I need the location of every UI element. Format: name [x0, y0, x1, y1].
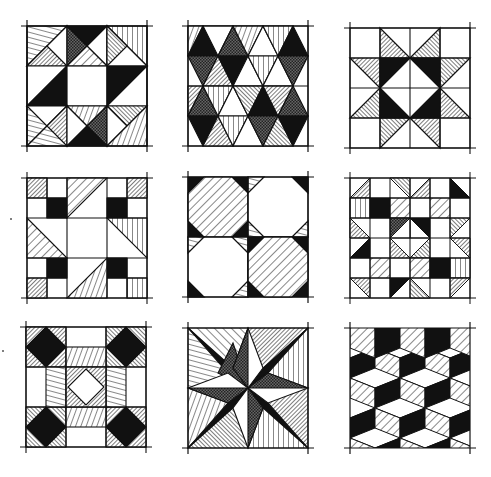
- quilt-block-6: [350, 178, 470, 298]
- diamond-rows-icon: [180, 18, 316, 154]
- half-square-triangle-grid-icon: [342, 170, 478, 306]
- quilt-block-5: [188, 177, 308, 297]
- quilt-block-7: [26, 327, 146, 447]
- compass-star-icon: [180, 320, 316, 456]
- quilt-block-9: [350, 328, 470, 448]
- octagon-snowball-icon: [180, 169, 316, 305]
- tumbling-blocks-icon: [342, 320, 478, 456]
- eight-pointed-star-icon: [342, 20, 478, 156]
- quilt-block-8: [188, 328, 308, 448]
- stray-mark: [2, 350, 4, 352]
- quilt-block-3: [350, 28, 470, 148]
- quilt-block-2: [188, 26, 308, 146]
- shoo-fly-pinwheel-icon: [19, 18, 155, 154]
- square-in-square-icon: [18, 319, 154, 455]
- nine-patch-triangles-icon: [19, 170, 155, 306]
- quilt-block-4: [27, 178, 147, 298]
- stray-mark: [10, 218, 12, 220]
- quilt-block-1: [27, 26, 147, 146]
